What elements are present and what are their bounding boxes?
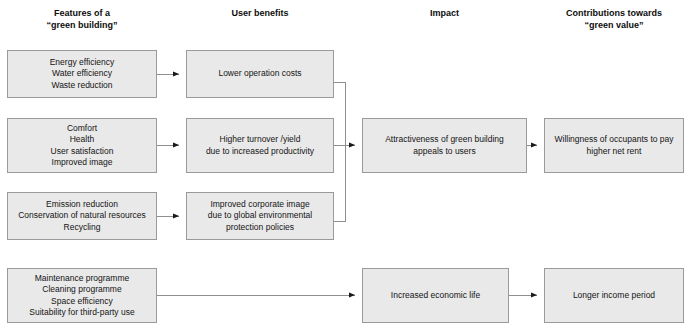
node-benefit-3: Improved corporate image due to global e… [186,192,334,240]
node-features-4: Maintenance programme Cleaning programme… [7,268,157,323]
node-benefit-1: Lower operation costs [186,50,334,98]
node-benefit-2: Higher turnover /yield due to increased … [186,118,334,173]
node-value-2: Longer income period [544,268,684,323]
node-impact-1: Attractiveness of green building appeals… [362,118,527,173]
column-header-contributions: Contributions towards “green value” [544,8,684,31]
column-header-impact: Impact [362,8,527,20]
node-features-3: Emission reduction Conservation of natur… [7,192,157,240]
column-header-user-benefits: User benefits [186,8,334,20]
node-features-2: Comfort Health User satisfaction Improve… [7,118,157,173]
node-features-1: Energy efficiency Water efficiency Waste… [7,50,157,98]
node-impact-2: Increased economic life [362,268,509,323]
node-value-1: Willingness of occupants to pay higher n… [544,118,684,173]
connector-benefit3-merge-stub [334,145,345,221]
column-header-features: Features of a “green building” [7,8,157,31]
diagram-canvas: Features of a “green building” User bene… [0,0,691,329]
connector-benefit1-merge-stub [334,82,345,145]
